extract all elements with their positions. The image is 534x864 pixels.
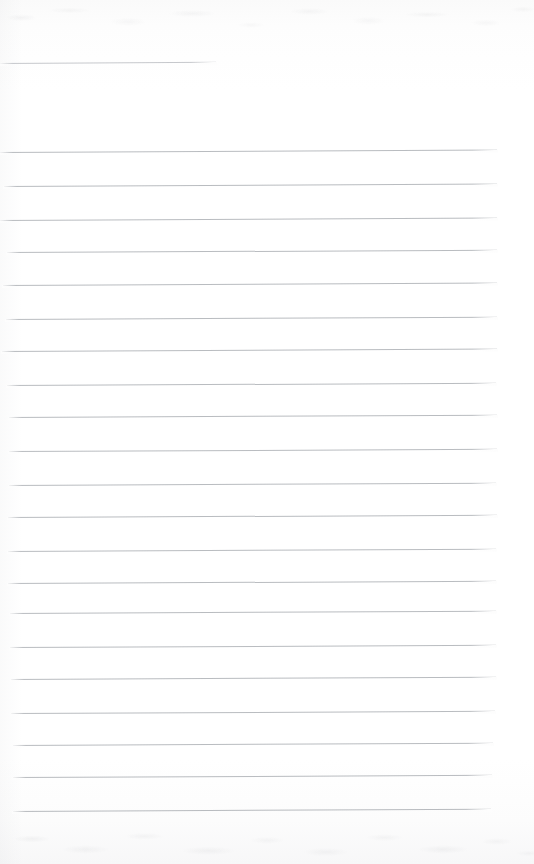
scanned-page xyxy=(0,0,534,864)
paper-background xyxy=(0,0,534,864)
